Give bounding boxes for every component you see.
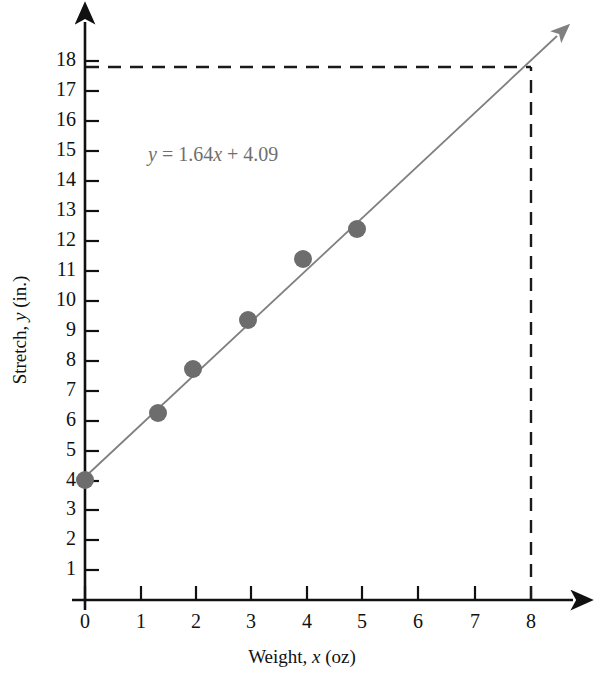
x-tick-label-7: 7 bbox=[470, 610, 480, 632]
x-tick-label-3: 3 bbox=[246, 610, 256, 632]
x-axis-title-group: Weight, x (oz) bbox=[248, 646, 356, 668]
equation-plus: + bbox=[222, 143, 243, 165]
y-tick-label-13: 13 bbox=[56, 198, 76, 220]
data-point bbox=[184, 360, 202, 378]
x-tick-label-0: 0 bbox=[80, 610, 90, 632]
y-tick-label-11: 11 bbox=[57, 258, 76, 280]
y-axis-ticks bbox=[85, 61, 99, 570]
equation-label: y = 1.64x + 4.09 bbox=[146, 143, 278, 166]
y-tick-label-12: 12 bbox=[56, 228, 76, 250]
y-tick-label-15: 15 bbox=[56, 138, 76, 160]
data-point bbox=[76, 471, 94, 489]
x-axis-tick-labels: 0 1 2 3 4 5 6 7 8 bbox=[80, 610, 536, 632]
y-axis-tick-labels: 1 2 3 4 5 6 7 8 9 10 11 12 13 14 15 16 1… bbox=[56, 48, 76, 579]
y-tick-label-5: 5 bbox=[66, 438, 76, 460]
y-axis-title-prefix: Stretch, bbox=[9, 321, 30, 384]
scatter-plot-figure: 1 2 3 4 5 6 7 8 9 10 11 12 13 14 15 16 1… bbox=[0, 0, 604, 678]
data-point bbox=[239, 311, 257, 329]
data-point bbox=[348, 220, 366, 238]
y-tick-label-10: 10 bbox=[56, 288, 76, 310]
x-tick-label-4: 4 bbox=[302, 610, 312, 632]
x-tick-label-6: 6 bbox=[413, 610, 423, 632]
x-tick-label-5: 5 bbox=[357, 610, 367, 632]
x-tick-label-1: 1 bbox=[136, 610, 146, 632]
y-tick-label-4: 4 bbox=[66, 468, 76, 490]
y-tick-label-7: 7 bbox=[66, 378, 76, 400]
y-tick-label-18: 18 bbox=[56, 48, 76, 70]
equation-coefficient: 1.64 bbox=[178, 143, 213, 165]
y-tick-label-1: 1 bbox=[66, 557, 76, 579]
y-axis-title: Stretch, y (in.) bbox=[9, 276, 31, 385]
equation-equals: = bbox=[157, 143, 178, 165]
data-point bbox=[149, 404, 167, 422]
x-axis-title-prefix: Weight, bbox=[248, 646, 312, 667]
x-tick-label-8: 8 bbox=[526, 610, 536, 632]
x-axis-title: Weight, x (oz) bbox=[248, 646, 356, 668]
x-tick-label-2: 2 bbox=[191, 610, 201, 632]
plot-canvas: 1 2 3 4 5 6 7 8 9 10 11 12 13 14 15 16 1… bbox=[0, 0, 604, 678]
equation-variable: x bbox=[212, 143, 222, 165]
y-tick-label-9: 9 bbox=[66, 318, 76, 340]
y-tick-label-3: 3 bbox=[66, 497, 76, 519]
data-points-group bbox=[76, 220, 366, 489]
equation-constant: 4.09 bbox=[243, 143, 278, 165]
y-tick-label-16: 16 bbox=[56, 108, 76, 130]
y-tick-label-17: 17 bbox=[56, 78, 76, 100]
equation-lhs: y bbox=[146, 143, 157, 166]
y-tick-label-8: 8 bbox=[66, 348, 76, 370]
x-axis-ticks bbox=[85, 586, 531, 600]
y-tick-label-14: 14 bbox=[56, 168, 76, 190]
axes-group bbox=[72, 22, 573, 610]
y-axis-title-suffix: (in.) bbox=[9, 276, 31, 313]
equation-annotation: y = 1.64x + 4.09 bbox=[146, 143, 278, 166]
y-tick-label-6: 6 bbox=[66, 408, 76, 430]
data-point bbox=[294, 250, 312, 268]
y-axis-title-variable: y bbox=[9, 312, 30, 323]
y-tick-label-2: 2 bbox=[66, 527, 76, 549]
y-axis-title-group: Stretch, y (in.) bbox=[9, 276, 31, 385]
x-axis-title-suffix: (oz) bbox=[321, 646, 356, 668]
